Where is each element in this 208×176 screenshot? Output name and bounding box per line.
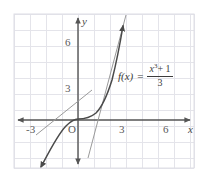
y-tick-label-3: 3 [65,83,71,94]
formula-numerator: x3+ 1 [147,64,172,76]
formula-numerator-tail: + 1 [157,63,170,74]
cubic-curve [41,26,123,167]
y-axis-label: y [82,16,87,27]
formula-function-name: f(x) [118,70,133,82]
x-tick-label-6: 6 [163,124,169,135]
plot-frame [14,14,194,168]
y-tick-label-6: 6 [65,37,71,48]
plot-canvas [0,0,208,176]
function-graph-figure: -3 O 3 6 3 6 x y f(x) = x3+ 1 3 [0,0,208,176]
function-formula: f(x) = x3+ 1 3 [118,64,173,88]
grid-lines [14,14,194,168]
formula-equals: = [137,70,143,82]
formula-fraction: x3+ 1 3 [147,64,172,88]
origin-label: O [68,124,76,135]
x-tick-label-neg3: -3 [26,124,35,135]
x-tick-label-3: 3 [119,124,125,135]
x-axis-label: x [188,124,193,135]
formula-denominator: 3 [156,77,165,89]
